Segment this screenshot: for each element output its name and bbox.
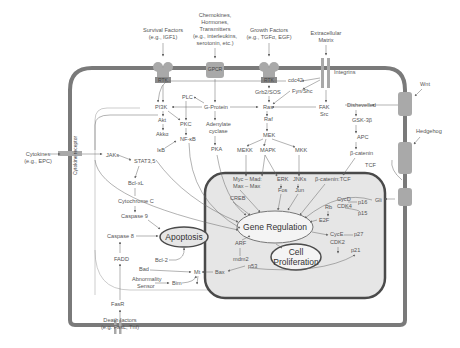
rtk2-receptor: RTK [259, 62, 279, 83]
node-bcatenin-tcf: β-catenin:TCF [315, 176, 351, 182]
node-mdm2: mdm2 [233, 256, 249, 262]
node-bim: Bim [172, 280, 182, 286]
node-mapk: MAPK [260, 147, 276, 153]
node-caspase9: Caspase 9 [121, 213, 148, 219]
wnt-label: Wnt [420, 81, 430, 87]
node-p27: p27 [354, 231, 363, 237]
node-gsk3b: GSK-3β [352, 117, 372, 123]
chemokines-line3: Transmitters [200, 26, 231, 32]
node-e2f: E2F [319, 217, 330, 223]
node-fos: Fos [278, 187, 288, 193]
node-jun: Jun [295, 187, 304, 193]
signaling-pathway-diagram: RTK GPCR RTK Integrins Cytokine receptor… [0, 0, 460, 348]
fasr-label: FasR [111, 301, 124, 307]
cytokines-example: (e.g., EPC) [24, 158, 52, 164]
node-p15: p15 [358, 210, 367, 216]
node-jaks: JAKs [106, 152, 119, 158]
chemokines-line5: serotonin, etc.) [197, 40, 234, 46]
smo-receptor [398, 188, 412, 206]
node-plc: PLC [182, 94, 193, 100]
node-stat: STAT3,5 [134, 158, 155, 164]
survival-factors-example: (e.g., IGF1) [149, 34, 178, 40]
node-adenylate-line2: cyclase [209, 128, 228, 134]
node-bclxl: Bcl-xL [128, 180, 144, 186]
hedgehog-label: Hedgehog [416, 128, 442, 134]
growth-factors-label: Growth Factors [250, 27, 288, 33]
node-fyn: Fyn/Shc [292, 88, 313, 94]
growth-factors-example: (e.g., TGFα, EGF) [246, 34, 291, 40]
node-gli: Gli [375, 197, 382, 203]
chemokines-line4: (e.g., interleukins, [193, 33, 238, 39]
node-caspase8: Caspase 8 [107, 233, 134, 239]
cytokine-receptor-label: Cytokine receptor [72, 135, 78, 175]
node-arf: ARF [235, 240, 247, 246]
cell-proliferation-label: Cell [289, 247, 304, 257]
death-factors-example: (e.g. FasL, Tnf) [101, 324, 139, 330]
survival-factors-label: Survival Factors [143, 27, 183, 33]
integrins-receptor: Integrins [321, 58, 356, 88]
node-cdk2: CDK2 [330, 239, 345, 245]
node-p21: p21 [351, 247, 360, 253]
node-jnks: JNKs [293, 176, 307, 182]
node-rb: Rb [325, 204, 332, 210]
node-bcatenin: β-catenin [350, 150, 373, 156]
node-gprotein: G-Protein [204, 104, 228, 110]
node-tcf: TCF [365, 162, 376, 168]
node-mt: Mt [194, 269, 201, 275]
integrins-label: Integrins [334, 69, 356, 75]
node-abnormality-sensor: Abnormality [132, 276, 162, 282]
node-pkc: PKC [180, 121, 192, 127]
node-cdc42: cdc42 [288, 77, 303, 83]
node-nfkb: NF-κB [180, 136, 196, 142]
cytokines-label: Cytokines [26, 151, 51, 157]
rtk1-label: RTK [158, 77, 169, 83]
node-cyce: CycE [330, 231, 344, 237]
node-pi3k: PI3K [155, 104, 167, 110]
node-pka: PKA [211, 146, 222, 152]
node-bad: Bad [139, 266, 149, 272]
node-akt: Akt [158, 117, 167, 123]
node-apc: APC [357, 134, 369, 140]
node-bcl2: Bcl-2 [155, 257, 168, 263]
gene-regulation-label: Gene Regulation [243, 222, 307, 232]
node-akka: Akkα [156, 131, 169, 137]
rtk2-label: RTK [264, 77, 275, 83]
node-mekk: MEKK [237, 147, 253, 153]
node-grb2: Grb2/SOS [255, 89, 281, 95]
patched-receptor [398, 142, 412, 174]
ecm-line2: Matrix [318, 37, 333, 43]
node-abnormality-sensor-line2: Sensor [137, 283, 155, 289]
node-cycd: CycD [337, 196, 351, 202]
cell-proliferation-label-line2: Proliferation [273, 257, 319, 267]
node-erk: ERK [277, 176, 289, 182]
node-adenylate: Adenylate [206, 121, 231, 127]
node-fadd: FADD [114, 256, 129, 262]
gpcr-label: GPCR [208, 66, 223, 72]
chemokines-label: Chemokines, [199, 12, 232, 18]
frizzled-receptor [398, 92, 412, 116]
apoptosis-label: Apoptosis [165, 232, 202, 242]
node-max-max: Max – Max [233, 183, 261, 189]
node-ikb: IκB [157, 147, 165, 153]
rtk1-receptor: RTK [153, 62, 173, 83]
node-p16: p16 [358, 199, 367, 205]
node-myc-mad: Myc – Mad: [233, 176, 262, 182]
node-bax: Bax [215, 269, 225, 275]
chemokines-line2: Hormones, [201, 19, 229, 25]
ecm-label: Extracellular [311, 30, 342, 36]
node-ras: Ras [263, 104, 273, 110]
node-mkk: MKK [295, 147, 307, 153]
node-cdk4: CDK4 [337, 203, 352, 209]
node-src: Src [320, 111, 329, 117]
node-mek: MEK [263, 132, 275, 138]
node-fak: FAK [319, 104, 330, 110]
gpcr-receptor: GPCR [206, 62, 224, 78]
node-raf: Raf [264, 116, 273, 122]
